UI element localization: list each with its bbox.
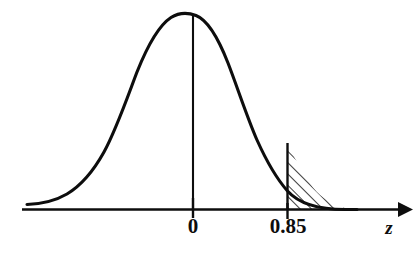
axis-tick-label-zero: 0 [175, 216, 211, 237]
x-axis-label: z [376, 218, 402, 237]
normal-distribution-figure: 0 0.85 z [0, 0, 418, 254]
right-tail-shaded-area [280, 135, 370, 215]
axis-tick-label-cutoff: 0.85 [258, 216, 318, 237]
x-axis-arrowhead-icon [398, 202, 413, 217]
